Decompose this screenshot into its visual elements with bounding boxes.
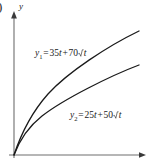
eq1-plus: + — [62, 48, 69, 58]
eq2-plus: + — [97, 110, 104, 120]
equation-label-y1: y1=35t+70t — [35, 49, 86, 60]
x-axis-arrowhead — [139, 152, 146, 157]
eq2-radical-sign-icon — [113, 111, 119, 119]
axes-group — [9, 11, 146, 158]
eq2-coefficient-2: 50 — [104, 110, 114, 120]
eq1-radical-sign-icon — [78, 49, 84, 57]
eq1-radicand: t — [83, 48, 86, 58]
eq1-radical: t — [78, 49, 86, 59]
y-axis-arrowhead — [11, 11, 17, 19]
eq1-coefficient-2: 70 — [69, 48, 79, 58]
figure-container: ) y y1=35t+70t y2=25t+50t — [0, 0, 151, 163]
equation-label-y2: y2=25t+50t — [70, 111, 121, 122]
eq1-coefficient-1: 35 — [49, 48, 59, 58]
plot-area — [0, 0, 151, 163]
eq2-coefficient-1: 25 — [84, 110, 94, 120]
eq2-radical: t — [113, 111, 121, 121]
eq2-radicand: t — [118, 110, 121, 120]
